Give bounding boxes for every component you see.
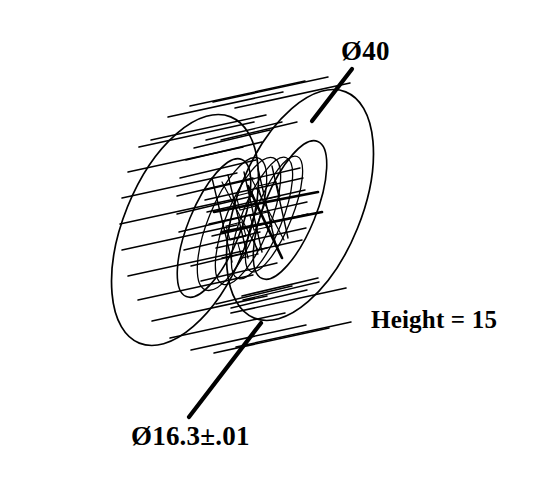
bore-diameter-label: Ø16.3±.01 [131, 421, 250, 451]
drawing-background [0, 0, 536, 490]
outer-diameter-label: Ø40 [341, 36, 390, 66]
technical-drawing-canvas [0, 0, 536, 490]
height-label: Height = 15 [371, 306, 497, 334]
